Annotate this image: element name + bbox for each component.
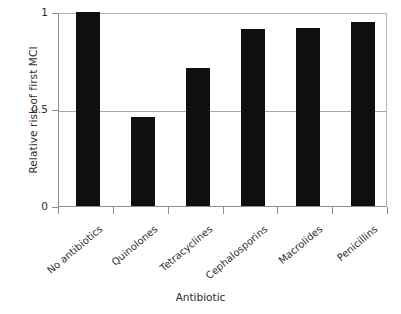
x-axis-title: Antibiotic	[0, 291, 401, 303]
x-tick-mark	[168, 207, 169, 214]
x-tick-mark	[113, 207, 114, 214]
y-tick-label: 1	[0, 6, 48, 18]
x-tick-mark	[332, 207, 333, 214]
bar	[76, 12, 100, 206]
y-tick-label: 0.5	[0, 103, 48, 115]
x-tick-mark	[387, 207, 388, 214]
bar	[296, 28, 320, 206]
bar	[186, 68, 210, 206]
bar-chart-figure: Relative risk of first MCI 10.50 No anti…	[0, 0, 401, 314]
y-tick-label: 0	[0, 200, 48, 212]
x-tick-mark	[58, 207, 59, 214]
bar-series	[59, 14, 386, 206]
bar	[351, 22, 375, 206]
x-tick-mark	[223, 207, 224, 214]
plot-area	[58, 13, 387, 207]
x-tick-mark	[277, 207, 278, 214]
bar	[241, 29, 265, 206]
bar	[131, 117, 155, 206]
